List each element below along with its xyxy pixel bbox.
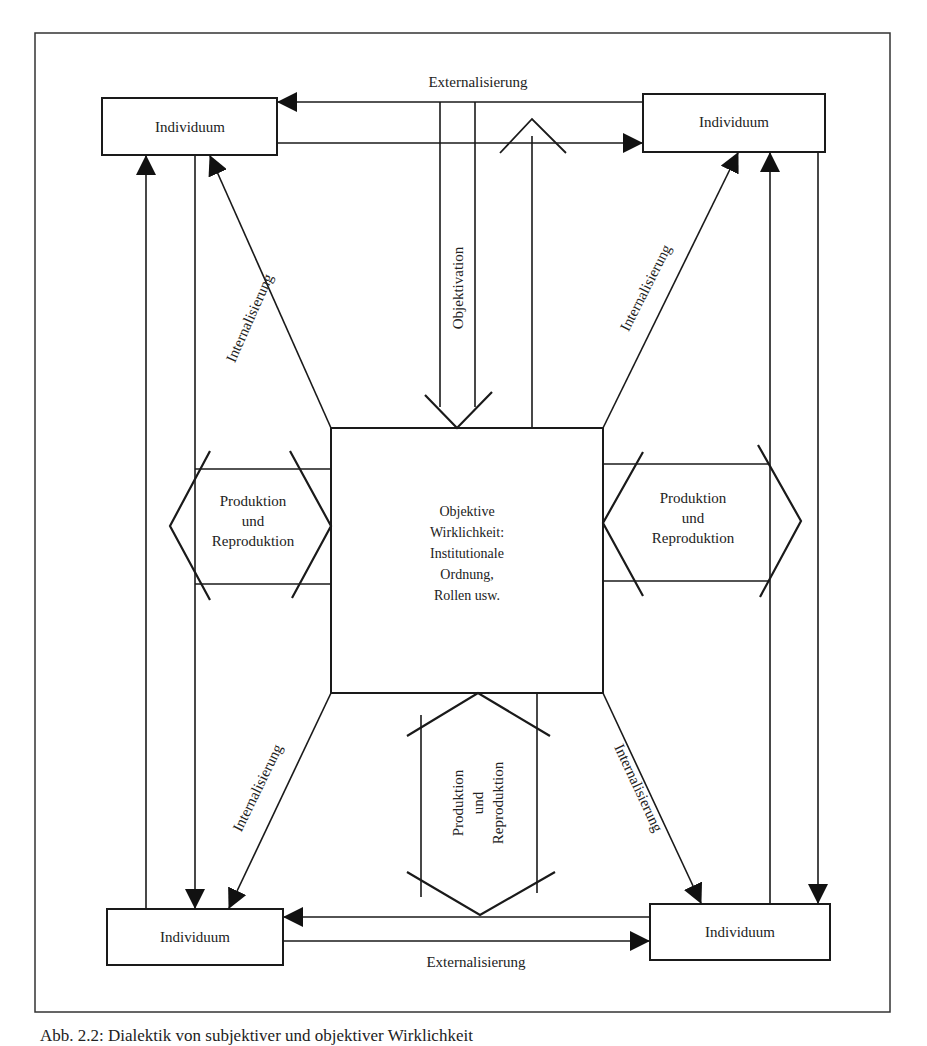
- svg-text:Objektive: Objektive: [439, 504, 494, 519]
- objektivation-arrowhead: [425, 392, 492, 428]
- svg-text:Produktion: Produktion: [660, 490, 727, 506]
- svg-text:Reproduktion: Reproduktion: [490, 761, 506, 844]
- svg-text:Ordnung,: Ordnung,: [440, 567, 493, 582]
- internalisierung-label-top-left: Internalisierung: [223, 271, 276, 365]
- individuum-label-bottom-right: Individuum: [705, 924, 775, 940]
- externalisierung-label-bottom: Externalisierung: [426, 954, 526, 970]
- produktion-right-text: Produktion und Reproduktion: [652, 490, 735, 546]
- individuum-label-bottom-left: Individuum: [160, 929, 230, 945]
- internalisierung-label-top-right: Internalisierung: [617, 241, 675, 333]
- svg-text:Institutionale: Institutionale: [430, 546, 504, 561]
- internalisierung-label-bottom-right: Internalisierung: [611, 741, 666, 834]
- figure-caption: Abb. 2.2: Dialektik von subjektiver und …: [40, 1026, 473, 1046]
- center-box-text: Objektive Wirklichkeit: Institutionale O…: [430, 504, 504, 603]
- svg-text:Wirklichkeit:: Wirklichkeit:: [430, 525, 504, 540]
- produktion-left-text: Produktion und Reproduktion: [212, 493, 295, 549]
- svg-text:und: und: [242, 513, 265, 529]
- internalisierung-arrow-top-right: [603, 153, 738, 428]
- individuum-label-top-left: Individuum: [155, 119, 225, 135]
- objektivation-label: Objektivation: [450, 246, 466, 329]
- internalisierung-label-bottom-left: Internalisierung: [229, 741, 285, 834]
- internalisierung-arrow-top-left: [210, 156, 331, 428]
- externalisierung-label-top: Externalisierung: [428, 74, 528, 90]
- produktion-bottom-text: Produktion und Reproduktion: [450, 761, 506, 844]
- upward-chevron: [500, 119, 566, 153]
- svg-text:Produktion: Produktion: [220, 493, 287, 509]
- svg-text:und: und: [682, 510, 705, 526]
- individuum-label-top-right: Individuum: [699, 114, 769, 130]
- svg-text:und: und: [470, 791, 486, 814]
- svg-text:Reproduktion: Reproduktion: [212, 533, 295, 549]
- svg-text:Produktion: Produktion: [450, 769, 466, 836]
- svg-text:Reproduktion: Reproduktion: [652, 530, 735, 546]
- outer-frame: [35, 33, 890, 1012]
- svg-text:Rollen usw.: Rollen usw.: [434, 588, 500, 603]
